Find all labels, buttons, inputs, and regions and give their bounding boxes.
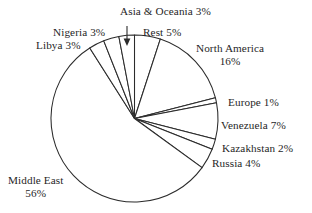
slice-label-europe: Europe 1% (228, 96, 279, 109)
slice-label-text: Middle East (8, 174, 63, 186)
slice-label-russia: Russia 4% (212, 157, 260, 170)
slice-label-text: Russia 4% (212, 157, 260, 169)
slice-label-north-america: North America 16% (196, 42, 264, 67)
slice-label-text: Venezuela 7% (221, 119, 286, 131)
pie-slices-group: Rest 5%North America 16%Europe 1%Venezue… (51, 35, 218, 202)
slice-label-text: Asia & Oceania 3% (120, 5, 211, 17)
pie-chart-figure: Rest 5%North America 16%Europe 1%Venezue… (0, 0, 312, 213)
slice-label-text: North America (196, 42, 264, 54)
slice-label-percent: 56% (8, 187, 63, 200)
slice-label-text: Nigeria 3% (53, 26, 105, 38)
slice-label-libya: Libya 3% (36, 39, 81, 52)
slice-label-percent: 16% (196, 55, 264, 68)
slice-label-text: Europe 1% (228, 96, 279, 108)
slice-label-venezuela: Venezuela 7% (221, 119, 286, 132)
slice-label-rest: Rest 5% (143, 26, 181, 39)
slice-label-middle-east: Middle East 56% (8, 174, 63, 199)
slice-label-text: Rest 5% (143, 26, 181, 38)
slice-label-kazakhstan: Kazakhstan 2% (222, 142, 293, 155)
slice-label-asia-oceania: Asia & Oceania 3% (120, 5, 211, 18)
slice-label-text: Libya 3% (36, 39, 81, 51)
slice-label-nigeria: Nigeria 3% (53, 26, 105, 39)
slice-label-text: Kazakhstan 2% (222, 142, 293, 154)
